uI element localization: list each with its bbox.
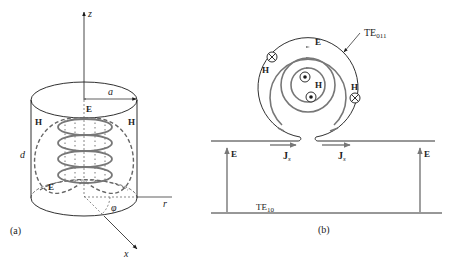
cavity-e-label: E [315,37,321,47]
guide-mode-label: TE10 [256,202,275,214]
guide-e-label-left: E [231,149,237,159]
phi-label: φ [111,202,117,213]
h-field-label-right: H [128,117,135,127]
e-field-rings [58,119,112,183]
cylinder-bottom [31,198,137,216]
panel-a-caption: (a) [10,225,21,237]
e-field-label-bottom: E [48,182,54,192]
h-out-of-page-icon [300,72,310,82]
e-field-label-top: E [86,104,92,114]
panel-a-cylinder-cavity: z a E H H d E r φ x (a) [10,8,172,259]
guide-e-label-right: E [424,149,430,159]
cavity-mode-label: TE011 [364,27,387,40]
h-out-of-page-icon [306,92,316,102]
h-into-page-icon [350,93,360,103]
panel-b-caption: (b) [318,224,330,236]
current-label-left: Js [283,150,291,163]
x-axis-label: x [123,248,129,259]
z-axis-label: z [87,8,92,19]
h-label-center: H [315,80,322,90]
h-field-label-left: H [35,117,42,127]
h-label-left: H [262,65,269,75]
height-label: d [20,149,26,160]
diagram-canvas: z a E H H d E r φ x (a) [0,0,451,265]
h-into-page-icon [267,52,277,62]
h-label-right: H [351,82,358,92]
x-axis [104,216,137,249]
r-axis-label: r [163,198,167,209]
radius-label: a [108,86,113,97]
panel-b-waveguide-coupling: TE011 E H H H Js Js E E TE10 (b) [211,27,442,236]
current-label-right: Js [338,150,346,163]
